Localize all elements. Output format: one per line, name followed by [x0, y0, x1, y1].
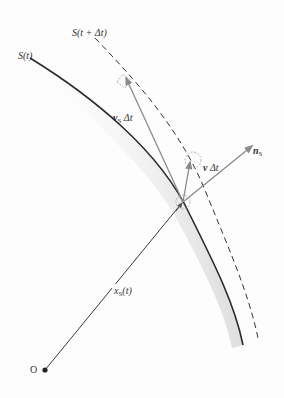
label-surface-t-dt: S(t + Δt)	[72, 28, 107, 38]
label-surface-t: S(t)	[18, 51, 32, 61]
label-normal-ns: nS	[253, 146, 262, 158]
vs-dt-tip-marker	[117, 74, 131, 88]
arrow-normal-ns	[183, 146, 252, 202]
surface-kinematics-diagram: S(t) S(t + Δt) vS Δt v Δt nS xS(t) O	[0, 0, 284, 398]
origin-point	[42, 367, 47, 372]
label-vs-dt: vS Δt	[113, 113, 133, 125]
label-position-xs: xS(t)	[114, 286, 132, 298]
v-dt-tip-circle	[185, 152, 201, 168]
label-v-dt: v Δt	[203, 163, 219, 173]
label-origin: O	[30, 365, 37, 375]
diagram-canvas	[0, 0, 284, 398]
